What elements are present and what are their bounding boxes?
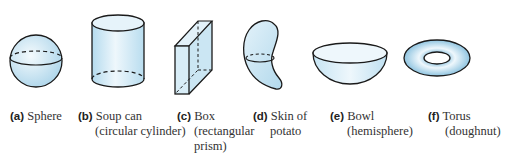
caption-letter: (c)	[177, 110, 191, 122]
caption-detail: potato	[253, 124, 307, 139]
caption-letter: (d)	[253, 110, 268, 122]
caption-name: Bowl	[347, 109, 374, 123]
caption-name: Torus	[442, 109, 470, 123]
caption-name: Skin of	[271, 109, 307, 123]
caption-letter: (a)	[10, 110, 24, 122]
caption-name: Box	[194, 109, 215, 123]
caption-box: (c) Box (rectangular prism)	[177, 109, 254, 154]
cylinder-shape	[92, 15, 144, 87]
caption-soup-can: (b) Soup can (circular cylinder)	[78, 109, 186, 139]
caption-potato: (d) Skin of potato	[253, 109, 307, 139]
caption-detail: prism)	[177, 139, 254, 154]
caption-name: Soup can	[96, 109, 142, 123]
caption-detail: (rectangular	[177, 124, 254, 139]
caption-letter: (e)	[330, 110, 344, 122]
caption-detail: (hemisphere)	[330, 124, 413, 139]
potato-shape	[244, 21, 282, 89]
bowl-shape	[313, 43, 387, 84]
caption-detail: (circular cylinder)	[78, 124, 186, 139]
caption-torus: (f) Torus (doughnut)	[428, 109, 501, 139]
caption-name: Sphere	[27, 109, 62, 123]
torus-shape	[404, 40, 470, 76]
caption-letter: (b)	[78, 110, 93, 122]
caption-bowl: (e) Bowl (hemisphere)	[330, 109, 413, 139]
sphere-shape	[10, 35, 62, 87]
caption-letter: (f)	[428, 110, 440, 122]
box-shape	[175, 21, 212, 94]
caption-detail: (doughnut)	[428, 124, 501, 139]
caption-sphere: (a) Sphere	[10, 109, 62, 124]
